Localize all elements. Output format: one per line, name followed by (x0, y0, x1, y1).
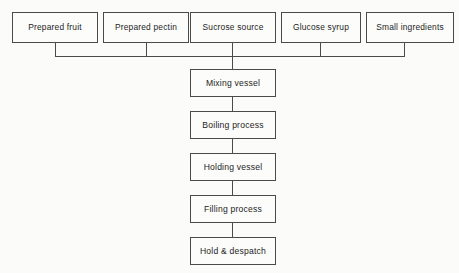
input-node-label: Sucrose source (203, 23, 264, 31)
input-node-label: Small ingredients (376, 23, 444, 31)
process-node-hold-and-despatch[interactable]: Hold & despatch (190, 237, 276, 265)
connector-trunk-to-mixing-vessel (232, 56, 233, 70)
process-node-mixing-vessel[interactable]: Mixing vessel (190, 69, 276, 97)
input-node-label: Prepared pectin (115, 23, 177, 31)
connector-stub-small-ingredients (404, 43, 405, 57)
process-node-boiling-process[interactable]: Boiling process (190, 111, 276, 139)
connector-stub-prepared-pectin (146, 43, 147, 57)
process-node-label: Hold & despatch (200, 247, 266, 256)
input-node-glucose-syrup[interactable]: Glucose syrup (281, 12, 361, 43)
input-node-label: Glucose syrup (293, 23, 349, 31)
connector-filling-to-hold-despatch (232, 223, 233, 238)
input-node-label: Prepared fruit (28, 23, 82, 31)
connector-holding-to-filling (232, 181, 233, 196)
process-node-label: Boiling process (202, 121, 263, 130)
input-node-prepared-fruit[interactable]: Prepared fruit (12, 12, 98, 43)
connector-boiling-to-holding (232, 139, 233, 154)
process-node-filling-process[interactable]: Filling process (190, 195, 276, 223)
connector-mixing-to-boiling (232, 97, 233, 112)
process-node-label: Filling process (204, 205, 262, 214)
connector-stub-prepared-fruit (55, 43, 56, 57)
process-node-holding-vessel[interactable]: Holding vessel (190, 153, 276, 181)
connector-horizontal-bus (55, 56, 405, 57)
connector-stub-sucrose-source (232, 43, 233, 57)
input-node-sucrose-source[interactable]: Sucrose source (190, 12, 276, 43)
process-node-label: Holding vessel (204, 163, 263, 172)
input-node-small-ingredients[interactable]: Small ingredients (366, 12, 454, 43)
input-node-prepared-pectin[interactable]: Prepared pectin (103, 12, 189, 43)
process-node-label: Mixing vessel (206, 79, 260, 88)
connector-stub-glucose-syrup (320, 43, 321, 57)
process-flow-diagram: Prepared fruit Prepared pectin Sucrose s… (0, 0, 459, 273)
